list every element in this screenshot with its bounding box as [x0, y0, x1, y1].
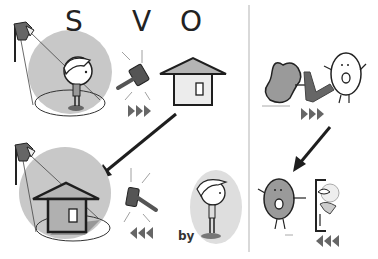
by-label: by — [178, 229, 194, 243]
gavel-verb-icon — [118, 50, 150, 100]
backward-arrows-icon-right — [316, 235, 339, 247]
verb-label: V — [132, 8, 151, 36]
gavel-verb-icon-passive — [124, 168, 156, 222]
egg-surprised-scene — [258, 179, 339, 235]
gray-bean-character-icon — [265, 63, 300, 103]
subject-label: S — [65, 8, 83, 36]
backward-arrows-icon — [130, 227, 153, 239]
transform-arrow-left — [96, 114, 176, 180]
house-object-icon — [160, 58, 226, 105]
object-spotlight-scene — [15, 143, 111, 241]
bean-pushing-scene — [262, 53, 366, 106]
subject-spotlight-scene — [14, 22, 112, 116]
diagram-canvas — [0, 0, 378, 259]
forward-arrows-icon — [128, 105, 151, 117]
forward-arrows-icon-right — [301, 108, 324, 120]
object-label: O — [180, 8, 202, 36]
transform-arrow-right — [293, 127, 330, 172]
agent-by-scene — [190, 170, 242, 244]
verb-v-block-icon — [304, 72, 334, 102]
